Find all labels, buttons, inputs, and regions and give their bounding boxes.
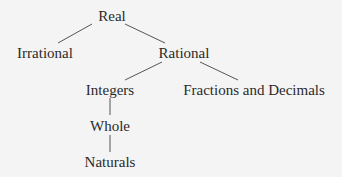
number-classification-tree: Real Irrational Rational Integers Fracti…	[0, 0, 342, 177]
node-integers: Integers	[86, 81, 134, 99]
node-naturals: Naturals	[85, 153, 136, 171]
edge-rational-integers	[125, 62, 162, 80]
node-irrational: Irrational	[17, 44, 73, 62]
edge-rational-fractions	[200, 62, 238, 80]
edge-real-rational	[125, 24, 165, 43]
edge-real-irrational	[58, 24, 92, 43]
node-fractions-and-decimals: Fractions and Decimals	[183, 81, 325, 99]
node-whole: Whole	[90, 117, 130, 135]
node-rational: Rational	[159, 44, 210, 62]
node-real: Real	[98, 7, 126, 25]
